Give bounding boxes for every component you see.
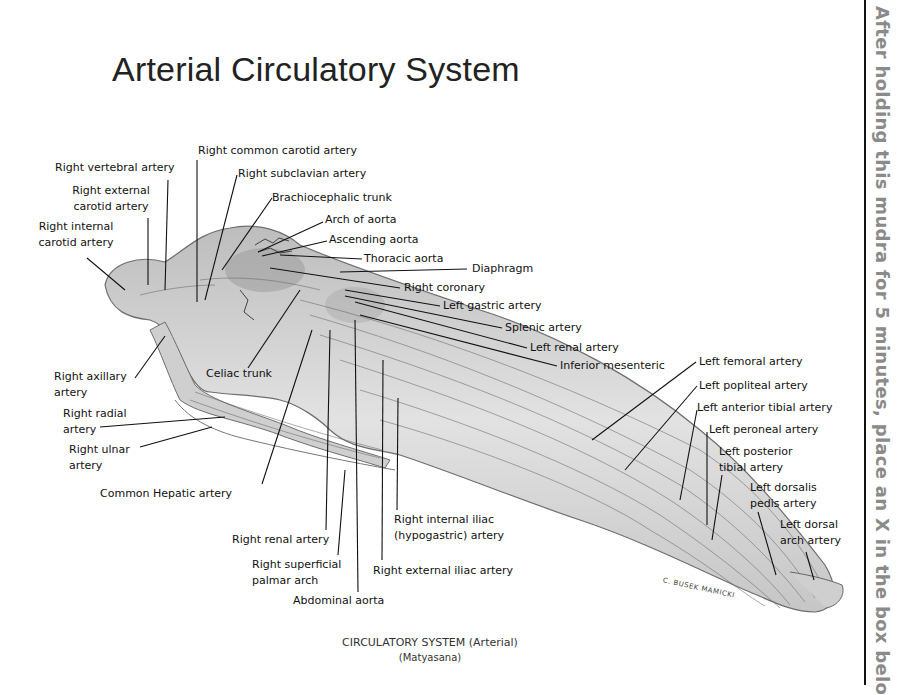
label-abdominal-aorta: Abdominal aorta — [293, 593, 384, 609]
label-line: artery — [63, 422, 127, 438]
label-common-hepatic-artery: Common Hepatic artery — [100, 486, 232, 502]
label-line: Left dorsal — [780, 517, 841, 533]
label-right-superficial-palmar-arch: Right superficial palmar arch — [252, 557, 341, 589]
caption-line-2: (Matyasana) — [0, 652, 860, 663]
label-line: Right ulnar — [69, 442, 130, 458]
label-celiac-trunk: Celiac trunk — [206, 366, 272, 382]
caption-line-1: CIRCULATORY SYSTEM (Arterial) — [0, 636, 860, 649]
label-right-common-carotid: Right common carotid artery — [198, 143, 357, 159]
label-left-posterior-tibial-artery: Left posterior tibial artery — [719, 444, 793, 476]
label-left-popliteal-artery: Left popliteal artery — [699, 378, 808, 394]
side-instruction-panel: After holding this mudra for 5 minutes, … — [862, 0, 898, 685]
label-left-peroneal-artery: Left peroneal artery — [709, 422, 818, 438]
label-right-internal-iliac: Right internal iliac (hypogastric) arter… — [394, 512, 504, 544]
label-arch-of-aorta: Arch of aorta — [325, 212, 396, 228]
label-line: Right axillary — [54, 369, 127, 385]
label-right-radial-artery: Right radial artery — [63, 406, 127, 438]
label-line: Right external — [68, 183, 154, 199]
label-inferior-mesenteric: Inferior mesenteric — [560, 358, 665, 374]
label-left-dorsalis-pedis-artery: Left dorsalis pedis artery — [750, 480, 817, 512]
label-right-internal-carotid: Right internal carotid artery — [36, 219, 116, 251]
label-line: Right internal iliac — [394, 512, 504, 528]
label-line: Left dorsalis — [750, 480, 817, 496]
label-line: tibial artery — [719, 460, 793, 476]
label-left-renal-artery: Left renal artery — [530, 340, 619, 356]
label-right-vertebral-artery: Right vertebral artery — [55, 160, 175, 176]
label-line: artery — [54, 385, 127, 401]
label-splenic-artery: Splenic artery — [505, 320, 582, 336]
label-right-subclavian: Right subclavian artery — [238, 166, 366, 182]
label-line: carotid artery — [36, 235, 116, 251]
label-line: palmar arch — [252, 573, 341, 589]
label-right-external-iliac: Right external iliac artery — [373, 563, 513, 579]
label-line: carotid artery — [68, 199, 154, 215]
label-thoracic-aorta: Thoracic aorta — [364, 251, 443, 267]
label-line: Right internal — [36, 219, 116, 235]
label-left-gastric-artery: Left gastric artery — [443, 298, 541, 314]
label-left-anterior-tibial-artery: Left anterior tibial artery — [697, 400, 832, 416]
label-line: Right superficial — [252, 557, 341, 573]
label-line: artery — [69, 458, 130, 474]
label-line: arch artery — [780, 533, 841, 549]
label-right-renal-artery: Right renal artery — [232, 532, 329, 548]
side-instruction-text: After holding this mudra for 5 minutes, … — [872, 6, 893, 695]
label-brachiocephalic-trunk: Brachiocephalic trunk — [272, 190, 392, 206]
label-ascending-aorta: Ascending aorta — [329, 232, 419, 248]
label-line: pedis artery — [750, 496, 817, 512]
label-right-coronary: Right coronary — [404, 280, 485, 296]
label-right-ulnar-artery: Right ulnar artery — [69, 442, 130, 474]
body-illustration — [0, 0, 860, 685]
label-diaphragm: Diaphragm — [472, 261, 533, 277]
label-line: Right radial — [63, 406, 127, 422]
label-line: Left posterior — [719, 444, 793, 460]
vertical-divider — [864, 0, 866, 685]
label-left-dorsal-arch-artery: Left dorsal arch artery — [780, 517, 841, 549]
label-right-external-carotid: Right external carotid artery — [68, 183, 154, 215]
label-line: (hypogastric) artery — [394, 528, 504, 544]
label-right-axillary-artery: Right axillary artery — [54, 369, 127, 401]
label-left-femoral-artery: Left femoral artery — [699, 354, 802, 370]
